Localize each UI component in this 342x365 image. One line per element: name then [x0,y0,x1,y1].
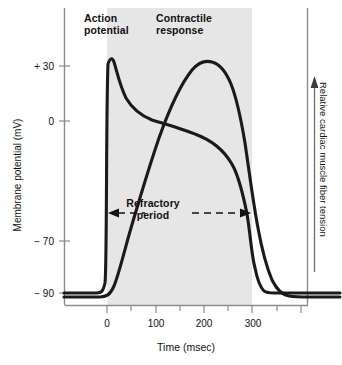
x-tick-label-300: 300 [245,318,262,329]
right-axis-title: Relative cardiac muscle fiber tension [318,82,329,237]
cardiac-action-potential-figure: + 30 0 − 70 − 90 0 100 200 300 Time (mse… [0,0,342,365]
x-tick-label-100: 100 [148,318,165,329]
y-tick-label-minus70: − 70 [18,236,54,247]
y-tick-label-0: 0 [18,116,54,127]
y-tick-label-30: + 30 [18,61,54,72]
y-tick-label-minus90: − 90 [18,288,54,299]
x-tick-label-200: 200 [196,318,213,329]
shaded-band-refractory [107,8,252,305]
y-axis-title: Membrane potential (mV) [12,119,23,232]
chart-canvas [0,0,342,365]
x-axis-title: Time (msec) [157,341,215,353]
x-tick-marks [107,305,301,313]
x-tick-label-0: 0 [104,318,110,329]
annotation-refractory-period: Refractory period [126,197,180,222]
annotation-action-potential: Action potential [84,12,129,37]
annotation-contractile-response: Contractile response [156,12,212,37]
